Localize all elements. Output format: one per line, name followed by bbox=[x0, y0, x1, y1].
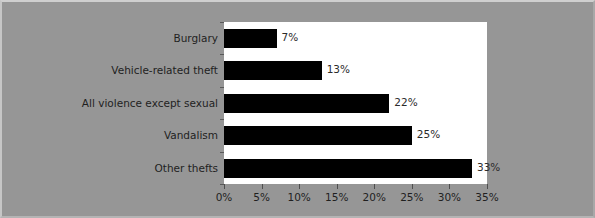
x-axis-tick bbox=[487, 184, 488, 189]
x-axis-tick-label-0: 0% bbox=[216, 190, 233, 204]
plot-area: 7% 13% 22% 25% 33% bbox=[224, 22, 487, 184]
x-axis-tick bbox=[412, 184, 413, 189]
x-axis-tick-label-20: 20% bbox=[363, 190, 386, 204]
bar-value-other-thefts: 33% bbox=[477, 160, 500, 174]
x-axis-tick-label-35: 35% bbox=[475, 190, 498, 204]
y-axis-label-burglary: Burglary bbox=[2, 31, 218, 45]
x-axis-tick bbox=[374, 184, 375, 189]
x-axis-tick-label-15: 15% bbox=[325, 190, 348, 204]
x-axis-tick-label-5: 5% bbox=[253, 190, 270, 204]
bar-row: 13% bbox=[224, 54, 487, 86]
bar-vehicle-related-theft bbox=[224, 61, 322, 80]
bar-value-all-violence-except-sexual: 22% bbox=[394, 95, 417, 109]
bar-vandalism bbox=[224, 126, 412, 145]
bar-all-violence-except-sexual bbox=[224, 94, 389, 113]
x-axis-tick bbox=[224, 184, 225, 189]
x-axis-tick bbox=[262, 184, 263, 189]
x-axis-tick bbox=[449, 184, 450, 189]
x-axis-tick bbox=[337, 184, 338, 189]
y-axis-label-other-thefts: Other thefts bbox=[2, 161, 218, 175]
bar-value-burglary: 7% bbox=[282, 30, 299, 44]
bar-row: 22% bbox=[224, 87, 487, 119]
x-axis-tick-label-10: 10% bbox=[287, 190, 310, 204]
y-axis-label-all-violence-except-sexual: All violence except sexual bbox=[2, 96, 218, 110]
bar-value-vehicle-related-theft: 13% bbox=[327, 62, 350, 76]
bar-value-vandalism: 25% bbox=[417, 127, 440, 141]
bar-row: 33% bbox=[224, 152, 487, 184]
y-axis-label-vandalism: Vandalism bbox=[2, 128, 218, 142]
y-axis-label-vehicle-related-theft: Vehicle-related theft bbox=[2, 63, 218, 77]
y-axis-category-labels: Burglary Vehicle-related theft All viole… bbox=[2, 22, 218, 184]
x-axis-tick-label-30: 30% bbox=[438, 190, 461, 204]
x-axis-tick bbox=[299, 184, 300, 189]
x-axis-tick-label-25: 25% bbox=[400, 190, 423, 204]
bar-row: 7% bbox=[224, 22, 487, 54]
bar-other-thefts bbox=[224, 159, 472, 178]
bar-burglary bbox=[224, 29, 277, 48]
bar-row: 25% bbox=[224, 119, 487, 151]
chart-figure: Burglary Vehicle-related theft All viole… bbox=[0, 0, 595, 218]
